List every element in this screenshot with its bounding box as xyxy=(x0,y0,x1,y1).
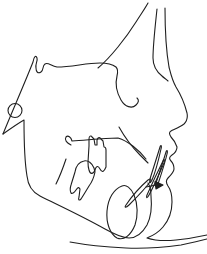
cephalometric-tracing xyxy=(0,0,207,254)
oblique-ridge-line xyxy=(56,159,66,184)
tracing-canvas xyxy=(0,0,207,254)
lower-incisor-outline xyxy=(125,179,151,207)
condyle-ramus-mandible-lower-border xyxy=(3,120,151,238)
lower-molar-outline xyxy=(70,161,95,200)
frontal-bone-inner-curve xyxy=(98,3,148,68)
neck-line xyxy=(70,239,207,248)
symphysis-outline xyxy=(107,185,137,238)
soft-tissue-profile xyxy=(147,8,207,241)
upper-molar-outline xyxy=(88,136,106,173)
anterior-maxilla-line xyxy=(119,127,148,163)
cranial-base-sella-orbital-outline xyxy=(3,56,138,134)
